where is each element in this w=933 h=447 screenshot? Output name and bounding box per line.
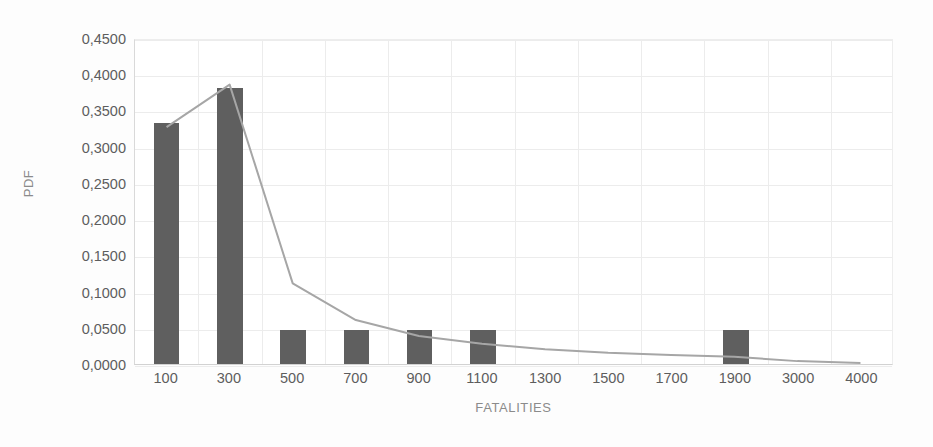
y-tick-label: 0,1000 [34, 285, 126, 301]
pdf-line-path [167, 85, 861, 363]
x-tick-label: 1300 [529, 370, 561, 386]
plot-area [134, 39, 893, 365]
x-axis-tick-labels: 1003005007009001100130015001700190030004… [134, 370, 893, 394]
x-tick-label: 300 [217, 370, 241, 386]
pdf-line-svg [135, 40, 892, 364]
y-tick-label: 0,4000 [34, 67, 126, 83]
y-tick-label: 0,4500 [34, 31, 126, 47]
y-tick-label: 0,3000 [34, 140, 126, 156]
x-tick-label: 1900 [719, 370, 751, 386]
pdf-fatalities-chart: PDF 0,45000,40000,35000,30000,25000,2000… [0, 0, 933, 447]
x-axis-title: FATALITIES [134, 400, 893, 415]
y-tick-label: 0,2500 [34, 176, 126, 192]
y-tick-label: 0,2000 [34, 212, 126, 228]
x-tick-label: 4000 [845, 370, 877, 386]
y-tick-label: 0,3500 [34, 103, 126, 119]
x-tick-label: 1100 [466, 370, 497, 386]
x-tick-label: 900 [407, 370, 431, 386]
y-tick-label: 0,0500 [34, 321, 126, 337]
x-tick-label: 1500 [592, 370, 624, 386]
x-tick-label: 500 [280, 370, 304, 386]
y-axis-tick-labels: 0,45000,40000,35000,30000,25000,20000,15… [34, 39, 126, 365]
x-tick-label: 100 [154, 370, 178, 386]
x-tick-label: 700 [343, 370, 367, 386]
horizontal-gridline [135, 366, 892, 367]
y-tick-label: 0,1500 [34, 248, 126, 264]
x-tick-label: 3000 [782, 370, 814, 386]
x-tick-label: 1700 [655, 370, 687, 386]
y-tick-label: 0,0000 [34, 357, 126, 373]
line-series [135, 40, 892, 364]
